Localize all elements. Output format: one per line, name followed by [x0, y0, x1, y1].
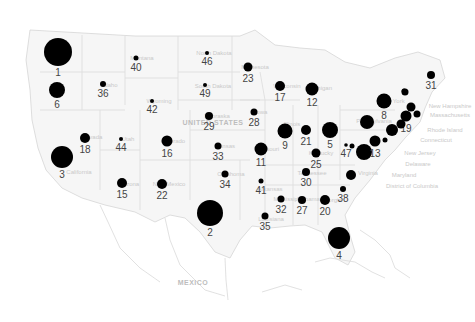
rank-label: 36 [97, 88, 109, 99]
bubble-marker[interactable] [244, 63, 253, 72]
rank-label: 6 [54, 99, 60, 110]
rank-label: 16 [161, 148, 173, 159]
bubble-marker[interactable] [306, 83, 319, 96]
bubble-marker[interactable] [119, 137, 123, 141]
bubble-marker[interactable] [51, 146, 73, 168]
bubble-marker[interactable] [162, 136, 173, 147]
bubble-marker[interactable] [383, 138, 388, 143]
bubble-marker[interactable] [320, 195, 330, 205]
rank-label: 44 [115, 142, 127, 153]
state-label: Delaware [405, 161, 431, 167]
bubble-marker[interactable] [203, 83, 207, 87]
bubble-wisconsin[interactable]: 17 [274, 81, 286, 103]
bubble-marker[interactable] [262, 213, 269, 220]
bubble-marker[interactable] [328, 227, 350, 249]
state-label: Rhode Island [427, 127, 462, 133]
rank-label: 18 [79, 144, 91, 155]
bubble-marker[interactable] [346, 170, 356, 180]
bubble-kentucky[interactable]: 25 [310, 149, 322, 170]
bubble-marker[interactable] [322, 122, 338, 138]
bubble-georgia[interactable]: 20 [319, 195, 331, 217]
bubble-arizona[interactable]: 15 [116, 178, 128, 200]
bubble-marker[interactable] [360, 115, 374, 129]
bubble-marker[interactable] [340, 186, 346, 192]
rank-label: 20 [319, 206, 331, 217]
bubble-marker[interactable] [407, 103, 416, 112]
bubble-minnesota[interactable]: 23 [242, 63, 254, 84]
rank-label: 3 [59, 169, 65, 180]
state-label: District of Columbia [386, 183, 439, 189]
bubble-marker[interactable] [312, 149, 321, 158]
bubble-marker[interactable] [197, 200, 223, 226]
rank-label: 47 [340, 148, 352, 159]
bubble-indiana[interactable]: 21 [300, 125, 312, 147]
rank-label: 4 [336, 250, 342, 261]
bubble-nevada[interactable]: 18 [79, 133, 91, 155]
country-label: MEXICO [178, 279, 209, 286]
bubble-marker[interactable] [44, 38, 72, 66]
bubble-new-hampshire[interactable] [407, 103, 416, 112]
bubble-maryland[interactable]: 13 [369, 136, 381, 159]
bubble-new-mexico[interactable]: 22 [156, 179, 168, 201]
state-label: New Jersey [404, 150, 435, 156]
bubble-marker[interactable] [134, 56, 139, 61]
bubble-marker[interactable] [344, 143, 348, 147]
bubble-marker[interactable] [215, 143, 222, 150]
rank-label: 5 [327, 139, 333, 150]
bubble-connecticut[interactable] [397, 120, 406, 129]
bubble-marker[interactable] [205, 51, 209, 55]
bubble-marker[interactable] [205, 112, 213, 120]
bubble-marker[interactable] [370, 136, 381, 147]
bubble-marker[interactable] [397, 120, 406, 129]
bubble-marker[interactable] [222, 171, 229, 178]
bubble-marker[interactable] [157, 179, 167, 189]
rank-label: 25 [310, 159, 322, 170]
bubble-marker[interactable] [255, 143, 268, 156]
bubble-marker[interactable] [402, 89, 407, 94]
rank-label: 49 [199, 88, 211, 99]
us-bubble-map[interactable]: MontanaIdahoWyomingNorth DakotaSouth Dak… [0, 0, 475, 322]
bubble-marker[interactable] [49, 82, 65, 98]
rank-label: 29 [203, 121, 215, 132]
state-label: Maryland [392, 172, 417, 178]
bubble-marker[interactable] [386, 124, 398, 136]
rank-label: 12 [306, 97, 318, 108]
bubble-marker[interactable] [278, 124, 293, 139]
bubble-marker[interactable] [80, 133, 90, 143]
bubble-marker[interactable] [298, 196, 306, 204]
bubble-marker[interactable] [251, 109, 258, 116]
state-label: Tennessee [297, 170, 327, 176]
bubble-marker[interactable] [302, 168, 310, 176]
bubble-north-carolina[interactable] [346, 170, 356, 180]
rank-label: 42 [146, 104, 158, 115]
rank-label: 23 [242, 73, 254, 84]
rank-label: 34 [219, 179, 231, 190]
rank-label: 32 [275, 204, 287, 215]
rank-label: 1 [55, 67, 61, 78]
bubble-marker[interactable] [259, 179, 264, 184]
bubble-marker[interactable] [427, 71, 435, 79]
bubble-marker[interactable] [100, 81, 106, 87]
bubble-delaware[interactable] [383, 138, 388, 143]
bubble-marker[interactable] [117, 178, 127, 188]
bubble-marker[interactable] [377, 94, 392, 109]
bubble-pennsylvania[interactable] [360, 115, 374, 129]
bubble-vermont-north-[interactable] [402, 89, 407, 94]
rank-label: 28 [248, 117, 260, 128]
bubble-marker[interactable] [275, 81, 285, 91]
rank-label: 2 [207, 227, 213, 238]
basemap [26, 30, 445, 300]
rank-label: 31 [425, 80, 437, 91]
rank-label: 27 [296, 205, 308, 216]
bubble-marker[interactable] [301, 125, 311, 135]
rank-label: 46 [201, 56, 213, 67]
rank-label: 13 [369, 148, 381, 159]
bubble-rhode-island[interactable] [414, 111, 421, 118]
bubble-colorado[interactable]: 16 [161, 136, 173, 159]
bubble-new-jersey[interactable] [386, 124, 398, 136]
state-label: New Hampshire [429, 103, 472, 109]
bubble-marker[interactable] [278, 196, 285, 203]
rank-label: 9 [282, 140, 288, 151]
bubble-marker[interactable] [150, 99, 154, 103]
bubble-marker[interactable] [414, 111, 421, 118]
